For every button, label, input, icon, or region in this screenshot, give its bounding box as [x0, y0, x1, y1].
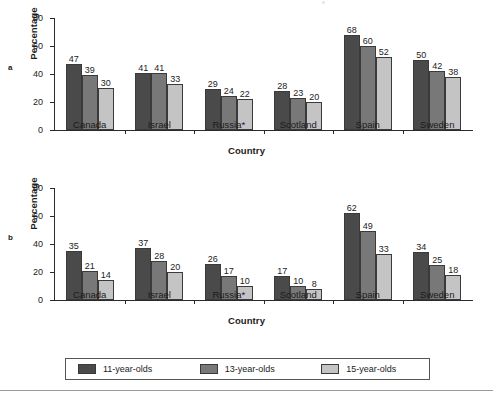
bar[interactable]: 62 — [344, 213, 360, 300]
bar-group: 473930 — [66, 18, 114, 130]
x-axis-category-label: Russia* — [194, 289, 264, 300]
bar-value-label: 28 — [277, 81, 287, 91]
x-axis-group-separator — [264, 130, 265, 134]
legend-item[interactable]: 13-year-olds — [200, 359, 275, 379]
legend-label: 13-year-olds — [225, 364, 275, 374]
bar-value-label: 26 — [208, 254, 218, 264]
bar-value-label: 22 — [240, 89, 250, 99]
bar-value-label: 24 — [224, 86, 234, 96]
y-axis-tick: 20 — [50, 102, 55, 103]
chart-panel-a: a Percentage 020406080473930414133292422… — [0, 0, 493, 170]
bar-value-label: 20 — [309, 92, 319, 102]
panel-tag-a: a — [8, 63, 12, 72]
x-axis-group-separator — [125, 130, 126, 134]
y-axis-tick: 80 — [50, 188, 55, 189]
bar-value-label: 42 — [432, 61, 442, 71]
bar-value-label: 28 — [154, 251, 164, 261]
x-axis-group-separator — [403, 130, 404, 134]
bar-value-label: 39 — [85, 65, 95, 75]
x-axis-category-label: Scotland — [264, 119, 334, 130]
bar-value-label: 23 — [293, 88, 303, 98]
bar-value-label: 10 — [240, 276, 250, 286]
y-axis-tick-label: 60 — [33, 41, 43, 51]
x-axis-group-separator — [403, 300, 404, 304]
bar-value-label: 20 — [170, 262, 180, 272]
bar-group: 292422 — [205, 18, 253, 130]
legend-label: 11-year-olds — [103, 364, 152, 374]
bar-value-label: 34 — [416, 242, 426, 252]
y-axis-tick-label: 20 — [33, 267, 43, 277]
legend-color-swatch — [78, 364, 96, 374]
legend-color-swatch — [200, 364, 218, 374]
bar-value-label: 10 — [293, 276, 303, 286]
y-axis-tick: 80 — [50, 18, 55, 19]
y-axis-tick-label: 40 — [33, 239, 43, 249]
y-axis-tick: 60 — [50, 216, 55, 217]
bar-group: 504238 — [413, 18, 461, 130]
bar-value-label: 35 — [69, 241, 79, 251]
x-axis-group-separator — [264, 300, 265, 304]
bar[interactable]: 60 — [360, 46, 376, 130]
x-axis-category-label: Russia* — [194, 119, 264, 130]
bar-group: 352114 — [66, 188, 114, 300]
bar-value-label: 25 — [432, 255, 442, 265]
x-axis-category-label: Israel — [125, 119, 195, 130]
plot-area-a: 0204060804739304141332924222823206860525… — [55, 18, 472, 130]
bar-value-label: 37 — [138, 238, 148, 248]
x-axis-group-separator — [194, 300, 195, 304]
x-axis-category-label: Canada — [55, 119, 125, 130]
x-axis-category-label: Sweden — [403, 119, 473, 130]
bar[interactable]: 68 — [344, 35, 360, 130]
bar-value-label: 29 — [208, 79, 218, 89]
bar-value-label: 41 — [138, 63, 148, 73]
bar-group: 282320 — [274, 18, 322, 130]
bar-group: 342518 — [413, 188, 461, 300]
bar-value-label: 62 — [347, 203, 357, 213]
x-axis-label-a: Country — [0, 145, 493, 156]
bar-value-label: 60 — [363, 36, 373, 46]
bar-value-label: 49 — [363, 221, 373, 231]
bar-value-label: 21 — [85, 261, 95, 271]
x-axis-label-b: Country — [0, 315, 493, 326]
figure: a Percentage 020406080473930414133292422… — [0, 0, 493, 398]
y-axis-tick: 20 — [50, 272, 55, 273]
y-axis-tick-label: 0 — [38, 125, 43, 135]
bar-value-label: 33 — [170, 74, 180, 84]
y-axis-tick: 0 — [50, 130, 55, 131]
bar-value-label: 33 — [379, 244, 389, 254]
legend-item[interactable]: 15-year-olds — [321, 359, 396, 379]
x-axis-category-label: Spain — [333, 289, 403, 300]
legend-item[interactable]: 11-year-olds — [78, 359, 152, 379]
x-axis-category-label: Spain — [333, 119, 403, 130]
bar-group: 686052 — [344, 18, 392, 130]
chart-panel-b: b Percentage 020406080352114372820261710… — [0, 170, 493, 340]
y-axis-tick-label: 80 — [33, 183, 43, 193]
bar-value-label: 50 — [416, 50, 426, 60]
y-axis-tick-label: 20 — [33, 97, 43, 107]
legend: 11-year-olds13-year-olds15-year-olds — [65, 358, 430, 380]
y-axis-tick-label: 40 — [33, 69, 43, 79]
footer-divider — [0, 390, 493, 391]
legend-color-swatch — [321, 364, 339, 374]
bar-value-label: 18 — [448, 265, 458, 275]
bar-group: 624933 — [344, 188, 392, 300]
plot-area-b: 0204060803521143728202617101710862493334… — [55, 188, 472, 300]
x-axis-category-label: Scotland — [264, 289, 334, 300]
bar-value-label: 30 — [101, 78, 111, 88]
x-axis-group-separator — [333, 130, 334, 134]
bar-value-label: 47 — [69, 54, 79, 64]
bar-value-label: 17 — [277, 266, 287, 276]
bar-value-label: 8 — [312, 279, 317, 289]
y-axis-tick-label: 0 — [38, 295, 43, 305]
bar-value-label: 52 — [379, 47, 389, 57]
x-axis-group-separator — [194, 130, 195, 134]
x-axis-category-label: Sweden — [403, 289, 473, 300]
bar-value-label: 41 — [154, 63, 164, 73]
bar-value-label: 38 — [448, 67, 458, 77]
bar-value-label: 14 — [101, 270, 111, 280]
x-axis-group-separator — [333, 300, 334, 304]
legend-label: 15-year-olds — [346, 364, 396, 374]
y-axis-tick-label: 60 — [33, 211, 43, 221]
x-axis-category-label: Israel — [125, 289, 195, 300]
x-axis-group-separator — [125, 300, 126, 304]
